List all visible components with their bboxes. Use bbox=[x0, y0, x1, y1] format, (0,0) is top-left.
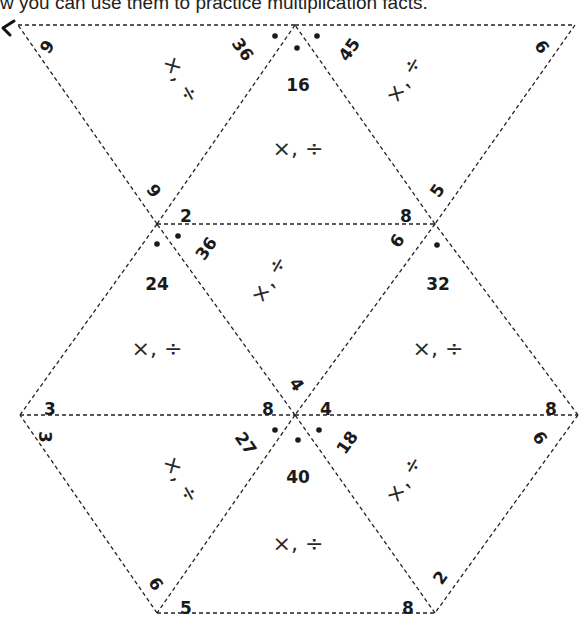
orientation-dot bbox=[294, 45, 300, 51]
edge-number-label: 5 bbox=[180, 598, 192, 618]
orientation-dot bbox=[295, 437, 301, 443]
operator-label: ×, ÷ bbox=[273, 136, 324, 161]
edge-number-label: 3 bbox=[35, 431, 55, 443]
tarsia-triangle-puzzle: 6366×, ÷1628×, ÷4595×, ÷2438×, ÷3694×, ÷… bbox=[0, 0, 585, 623]
orientation-dot bbox=[175, 233, 181, 239]
edge-number-label: 24 bbox=[145, 274, 169, 294]
orientation-dot bbox=[316, 427, 322, 433]
orientation-dot bbox=[434, 242, 440, 248]
orientation-dot bbox=[272, 427, 278, 433]
operator-label: ×, ÷ bbox=[132, 336, 183, 361]
orientation-dot bbox=[154, 241, 160, 247]
edge-number-label: 8 bbox=[400, 206, 412, 226]
orientation-dot bbox=[272, 33, 278, 39]
edge-number-label: 40 bbox=[286, 467, 310, 487]
operator-label: ×, ÷ bbox=[273, 531, 324, 556]
edge-number-label: 32 bbox=[426, 274, 450, 294]
edge-number-label: 16 bbox=[286, 75, 310, 95]
edge-number-label: 2 bbox=[180, 206, 192, 226]
orientation-dot bbox=[314, 33, 320, 39]
operator-label: ×, ÷ bbox=[413, 336, 464, 361]
edge-number-label: 8 bbox=[402, 598, 414, 618]
triangle-pieces: 6366×, ÷1628×, ÷4595×, ÷2438×, ÷3694×, ÷… bbox=[18, 25, 578, 618]
scissors-icon bbox=[3, 21, 14, 35]
